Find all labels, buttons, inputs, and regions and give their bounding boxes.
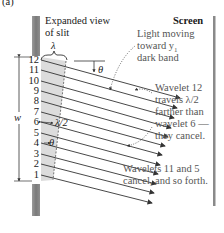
- half-lambda-label: λ/2: [55, 117, 68, 129]
- screen-label: Screen: [173, 15, 203, 27]
- light-note-line1: Light moving: [137, 28, 194, 40]
- slit-wall-bottom: [32, 184, 40, 216]
- slit-wall-top: [32, 16, 40, 56]
- wavelet-number: 6: [27, 117, 39, 127]
- wavelet-note-line1: Wavelet 12: [155, 82, 202, 94]
- slit-title-line2: of slit: [45, 27, 69, 39]
- screen: [213, 16, 216, 206]
- theta-label: θ: [98, 64, 103, 76]
- wavelet-note-line2: travels λ/2: [155, 94, 199, 106]
- cancel-note-line2: cancel, and so forth.: [123, 175, 208, 187]
- panel-label: (a): [2, 0, 14, 8]
- slit-title-line1: Expanded view: [45, 15, 110, 27]
- lambda-label: λ: [51, 40, 56, 52]
- wavelet-number: 11: [27, 65, 39, 75]
- wavelet-number: 4: [27, 138, 39, 148]
- light-pointer: [110, 46, 135, 90]
- small-theta-label: θ: [49, 137, 54, 149]
- wavelet-number: 8: [27, 96, 39, 106]
- wavelet-note-line4: wavelet 6 —: [155, 118, 209, 130]
- wavelet-note-line5: they cancel.: [155, 130, 205, 142]
- wavelet-note-line3: farther than: [155, 106, 204, 118]
- width-label: w: [14, 112, 21, 124]
- wavelet-number: 1: [27, 170, 39, 180]
- wavelet-number: 2: [27, 159, 39, 169]
- light-note-line3: dark band: [137, 52, 179, 64]
- cancel-note-line1: Wavelets 11 and 5: [123, 163, 200, 175]
